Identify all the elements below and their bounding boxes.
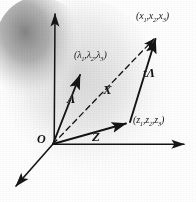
axis-vertical [54, 14, 55, 144]
paren-close: ) [103, 49, 106, 60]
x2-sub: 2 [153, 16, 156, 23]
lambda1-sub: 1 [81, 55, 84, 62]
z1-sub: 1 [140, 120, 143, 127]
vector-label-t-lambda: tΛ [143, 66, 155, 79]
vector-label-z: Z [92, 130, 100, 143]
lambda2-sub: 2 [91, 55, 94, 62]
origin-label: O [37, 133, 46, 145]
z2-sub: 2 [149, 120, 152, 127]
background-shading [0, 0, 182, 188]
vector-label-x: X [103, 83, 112, 96]
x1-sub: 1 [143, 16, 146, 23]
vector-diagram-figure: (x1,x2,x3) (λ1,λ2,λ3) (z1,z2,z3) Λ X Z t… [0, 0, 196, 202]
diagram-canvas [0, 0, 196, 202]
paren-close: ) [161, 114, 164, 125]
vector-label-lambda: Λ [67, 92, 76, 105]
point-label-x: (x1,x2,x3) [136, 11, 169, 24]
paren-close: ) [166, 10, 169, 21]
point-label-lambda: (λ1,λ2,λ3) [74, 50, 107, 63]
point-label-z: (z1,z2,z3) [133, 115, 164, 128]
